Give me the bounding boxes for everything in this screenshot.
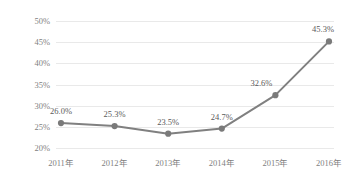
data-point-markers xyxy=(58,38,332,136)
chart-plot-area xyxy=(0,0,347,182)
data-point-label: 24.7% xyxy=(197,112,247,122)
y-axis-tick-label: 20% xyxy=(22,143,50,153)
y-axis-tick-label: 35% xyxy=(22,80,50,90)
data-point-marker xyxy=(326,38,332,44)
line-chart: 20%25%30%35%40%45%50% 2011年2012年2013年201… xyxy=(0,0,347,182)
data-point-label: 26.0% xyxy=(36,106,86,116)
x-axis-category-label: 2011年 xyxy=(36,156,86,168)
y-axis-tick-label: 45% xyxy=(22,37,50,47)
gridlines xyxy=(56,22,334,149)
x-axis-category-label: 2013年 xyxy=(143,156,193,168)
series-line xyxy=(61,41,329,133)
data-point-label: 32.6% xyxy=(236,78,286,88)
data-point-label: 23.5% xyxy=(143,117,193,127)
data-point-marker xyxy=(219,126,225,132)
data-point-marker xyxy=(165,131,171,137)
x-axis-category-label: 2016年 xyxy=(304,156,347,168)
y-axis-tick-label: 25% xyxy=(22,122,50,132)
data-point-label: 45.3% xyxy=(298,24,347,34)
data-point-label: 25.3% xyxy=(90,109,140,119)
data-point-marker xyxy=(58,120,64,126)
x-axis-category-label: 2012年 xyxy=(90,156,140,168)
x-axis-category-label: 2014年 xyxy=(197,156,247,168)
y-axis-tick-label: 40% xyxy=(22,58,50,68)
x-axis-category-label: 2015年 xyxy=(250,156,300,168)
data-point-marker xyxy=(272,92,278,98)
y-axis-tick-label: 50% xyxy=(22,16,50,26)
data-point-marker xyxy=(112,123,118,129)
